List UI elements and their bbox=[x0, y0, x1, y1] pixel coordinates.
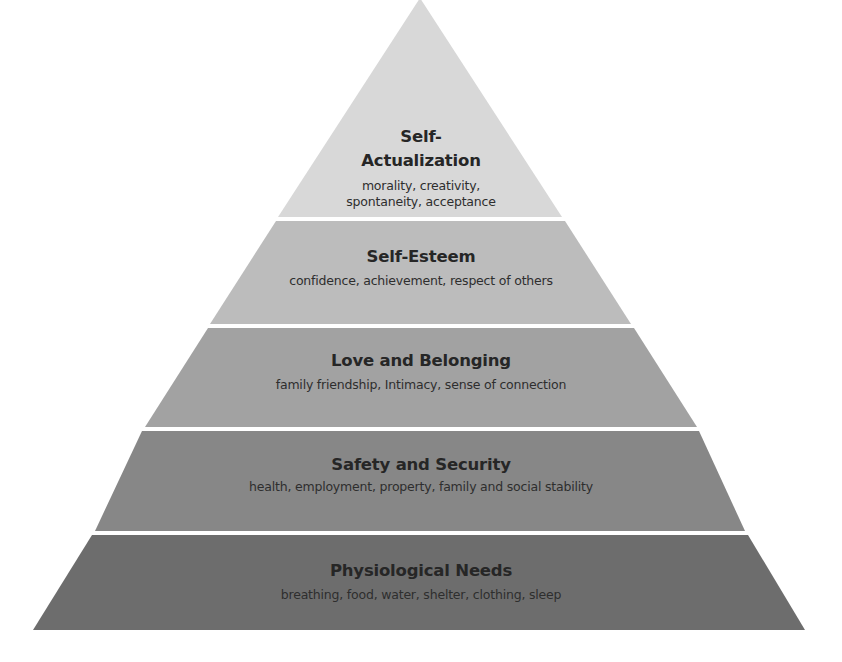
tier-safety-security: Safety and Security health, employment, … bbox=[0, 453, 842, 495]
tier-physiological: Physiological Needs breathing, food, wat… bbox=[0, 559, 842, 603]
tier-title: Safety and Security bbox=[0, 453, 842, 477]
tier-title: Self- bbox=[0, 125, 842, 149]
tier-subtitle: confidence, achievement, respect of othe… bbox=[0, 273, 842, 289]
tier-self-actualization: Self- Actualization morality, creativity… bbox=[0, 125, 842, 210]
tier-title: Self-Esteem bbox=[0, 245, 842, 269]
tier-title: Love and Belonging bbox=[0, 349, 842, 373]
tier-subtitle: breathing, food, water, shelter, clothin… bbox=[0, 587, 842, 603]
tier-title: Actualization bbox=[0, 149, 842, 173]
tier-title: Physiological Needs bbox=[0, 559, 842, 583]
tier-love-belonging: Love and Belonging family friendship, In… bbox=[0, 349, 842, 393]
tier-subtitle: morality, creativity, bbox=[0, 178, 842, 194]
tier-subtitle: health, employment, property, family and… bbox=[0, 479, 842, 495]
tier-self-esteem: Self-Esteem confidence, achievement, res… bbox=[0, 245, 842, 289]
tier-subtitle: family friendship, Intimacy, sense of co… bbox=[0, 377, 842, 393]
tier-subtitle: spontaneity, acceptance bbox=[0, 194, 842, 210]
